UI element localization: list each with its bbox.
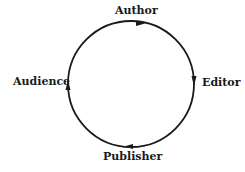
node-author: Author (115, 5, 158, 16)
arrow-down-icon (192, 76, 197, 86)
cycle-circle (68, 21, 194, 147)
node-audience: Audience (13, 76, 70, 87)
arrow-left-icon (124, 144, 133, 149)
node-publisher: Publisher (103, 151, 162, 162)
node-editor: Editor (202, 77, 240, 88)
